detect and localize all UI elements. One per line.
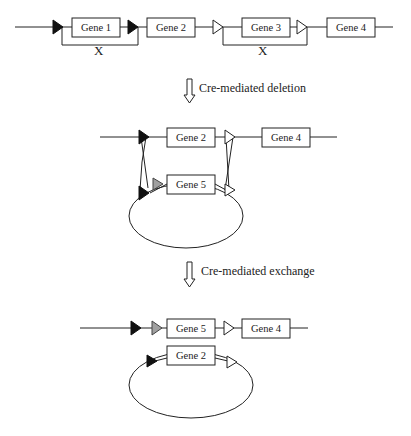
gray-lox-site-icon [152,321,162,335]
crossover-mark-2: X [258,43,268,58]
recombination-diagram: X X Gene 1 Gene 2 Gene 3 Gene 4 Cre-medi… [0,0,411,436]
gene-label: Gene 5 [176,179,206,190]
gene-label: Gene 4 [251,323,282,334]
down-arrow-icon [184,79,195,103]
stage-1-construct: X X Gene 1 Gene 2 Gene 3 Gene 4 [15,18,393,58]
gene-label: Gene 2 [176,350,206,361]
step-label: Cre-mediated deletion [199,81,306,95]
open-lox-site-icon [225,184,235,196]
black-lox-site-icon [147,355,157,367]
down-arrow-icon [184,262,195,287]
gene-label: Gene 2 [176,132,206,143]
gene-label: Gene 5 [176,323,206,334]
open-lox-site-icon [225,130,235,144]
open-lox-site-icon [297,20,307,34]
black-lox-site-icon [131,321,141,335]
step-label: Cre-mediated exchange [201,264,315,278]
exchange-step-arrow: Cre-mediated exchange [184,262,315,287]
gene-label: Gene 3 [251,22,281,33]
gene-label: Gene 2 [156,22,186,33]
gene-label: Gene 1 [81,22,111,33]
crossover-mark-1: X [94,43,104,58]
open-lox-site-icon [227,356,237,368]
gene-label: Gene 4 [336,22,367,33]
stage-2-intermediate: Gene 2 Gene 4 Gene 5 [100,128,337,248]
black-lox-site-icon [139,186,149,200]
plasmid-strand [215,358,228,361]
gene-label: Gene 4 [271,132,302,143]
open-lox-site-icon [213,20,223,34]
black-lox-site-icon [139,130,149,144]
open-lox-site-icon [224,321,234,335]
deletion-step-arrow: Cre-mediated deletion [184,79,306,103]
black-lox-site-icon [128,20,138,34]
stage-3-result: Gene 5 Gene 4 Gene 2 [80,319,308,418]
